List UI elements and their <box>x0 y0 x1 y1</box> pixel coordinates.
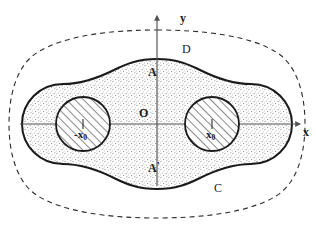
right-point-label-x0: x0 <box>206 129 215 140</box>
outer-region-label-d: D <box>182 43 191 55</box>
x-axis-label: x <box>303 126 309 138</box>
left-point-label-minus-x0: -x0 <box>74 129 87 140</box>
diagram-svg <box>0 0 316 227</box>
upper-intersection-label-a: A <box>148 66 157 78</box>
left-point-subscript: 0 <box>83 133 87 142</box>
lower-intersection-letter: A <box>148 161 157 175</box>
lower-intersection-prime: ' <box>157 159 160 171</box>
right-hatched-disk <box>185 97 239 151</box>
boundary-curve-label-c: C <box>214 182 222 194</box>
left-hatched-disk <box>56 97 110 151</box>
right-point-base: x <box>206 128 212 140</box>
lower-intersection-label-a-prime: A' <box>148 162 160 174</box>
y-axis-label: y <box>180 12 186 24</box>
figure-canvas: y x O A A' D C -x0 x0 <box>0 0 316 227</box>
right-point-subscript: 0 <box>212 133 216 142</box>
origin-label: O <box>139 107 148 119</box>
